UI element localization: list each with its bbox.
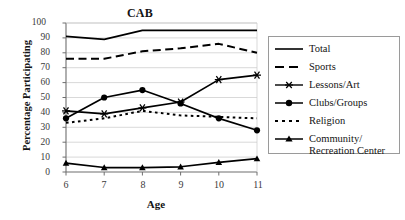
series-line <box>66 159 257 168</box>
series-line <box>66 90 257 130</box>
data-point-marker <box>139 87 145 93</box>
chart-figure: CAB Percentage Participating Age 0 10 20… <box>0 0 405 220</box>
legend: Total Sports Lessons/Art <box>268 36 400 154</box>
legend-swatch-triangle-line <box>274 133 304 145</box>
legend-label: Religion <box>309 115 345 127</box>
legend-label: Clubs/Groups <box>309 97 367 109</box>
legend-label: Total <box>309 43 330 55</box>
legend-item-total: Total <box>274 43 330 57</box>
legend-item-clubs-groups: Clubs/Groups <box>274 97 367 111</box>
legend-swatch-solid-line <box>274 43 304 55</box>
data-point-marker <box>100 110 108 117</box>
legend-swatch-dotted-line <box>274 115 304 127</box>
legend-swatch-dashed-line <box>274 61 304 73</box>
series-line <box>66 44 257 59</box>
legend-label: Lessons/Art <box>309 79 360 91</box>
data-point-marker <box>254 127 260 133</box>
legend-item-sports: Sports <box>274 61 336 75</box>
legend-item-religion: Religion <box>274 115 345 129</box>
legend-swatch-circle-line <box>274 97 304 109</box>
legend-item-lessons-art: Lessons/Art <box>274 79 360 93</box>
data-point-marker <box>63 115 69 121</box>
legend-label: Community/ Recreation Center <box>309 133 385 156</box>
legend-item-community-recreation-center: Community/ Recreation Center <box>274 133 385 147</box>
legend-swatch-asterisk-line <box>274 79 304 91</box>
legend-label: Sports <box>309 61 336 73</box>
data-point-marker <box>178 100 184 106</box>
data-point-marker <box>101 94 107 100</box>
series-line <box>66 75 257 114</box>
data-series-layer <box>62 30 261 170</box>
